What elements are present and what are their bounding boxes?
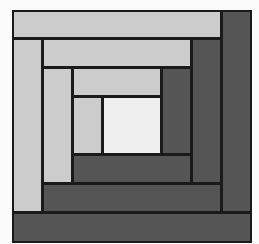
dark-strip-3-bottom <box>12 212 252 243</box>
light-strip-3-top <box>12 10 222 39</box>
dark-strip-1-bottom <box>72 154 192 184</box>
light-strip-2-top <box>42 38 192 68</box>
light-strip-1-top <box>72 67 162 97</box>
dark-strip-2-bottom <box>42 183 222 213</box>
light-strip-1-left <box>72 96 103 155</box>
dark-strip-1-right <box>161 67 192 155</box>
light-strip-2-left <box>42 67 73 184</box>
light-strip-3-left <box>12 38 43 213</box>
dark-strip-2-right <box>191 38 222 184</box>
dark-strip-3-right <box>221 10 252 213</box>
center-square <box>102 96 162 155</box>
